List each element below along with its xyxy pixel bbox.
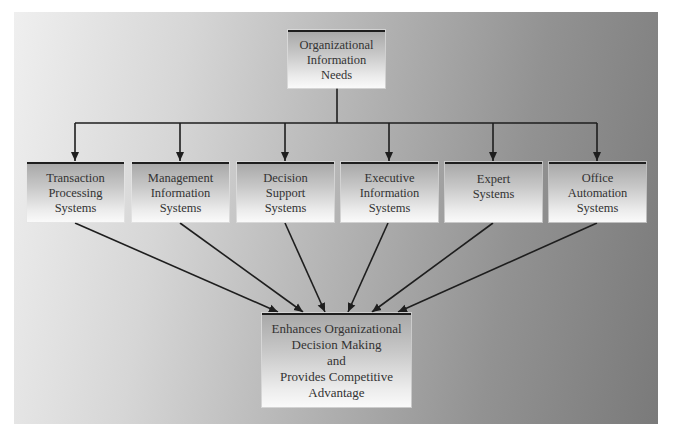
node-label-line: Information [299, 53, 373, 68]
node-label-line: Information [148, 186, 213, 201]
node-label-line: Organizational [299, 38, 373, 53]
node-expert-systems: Expert Systems [445, 162, 542, 222]
node-executive-information-systems: Executive Information Systems [341, 162, 438, 222]
node-office-automation-systems: Office Automation Systems [549, 162, 646, 222]
node-label-line: Systems [46, 201, 105, 216]
node-label-line: Needs [299, 68, 373, 83]
node-label-line: Systems [148, 201, 213, 216]
node-label-line: and [271, 353, 401, 369]
node-competitive-advantage: Enhances Organizational Decision Making … [262, 313, 411, 407]
node-label-line: Provides Competitive [271, 369, 401, 385]
node-label-line: Decision Making [271, 337, 401, 353]
node-label-line: Office [568, 171, 628, 186]
node-management-information-systems: Management Information Systems [132, 162, 229, 222]
node-transaction-processing-systems: Transaction Processing Systems [27, 162, 124, 222]
node-label-line: Enhances Organizational [271, 321, 401, 337]
node-label-line: Systems [263, 201, 307, 216]
node-label-line: Executive [360, 171, 420, 186]
node-label-line: Decision [263, 171, 307, 186]
node-label-line: Information [360, 186, 420, 201]
node-label-line: Advantage [271, 385, 401, 401]
node-label-line: Systems [473, 187, 515, 202]
node-label-line: Management [148, 171, 213, 186]
node-label-line: Expert [473, 172, 515, 187]
node-label-line: Systems [360, 201, 420, 216]
node-label-line: Systems [568, 201, 628, 216]
node-label-line: Automation [568, 186, 628, 201]
node-label-line: Processing [46, 186, 105, 201]
node-decision-support-systems: Decision Support Systems [237, 162, 334, 222]
node-label-line: Support [263, 186, 307, 201]
node-organizational-information-needs: Organizational Information Needs [288, 30, 385, 88]
node-label-line: Transaction [46, 171, 105, 186]
